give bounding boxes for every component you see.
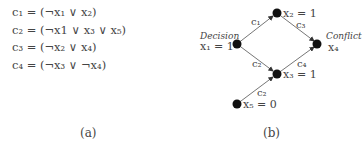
node-x5 xyxy=(233,100,242,109)
edge-label-c1: c₁ xyxy=(251,16,261,27)
node-x3-label: x₃ = 1 xyxy=(283,68,317,81)
node-x2 xyxy=(273,9,282,18)
edge-label-c4: c₄ xyxy=(297,58,307,69)
node-x1-label: x₁ = 1 xyxy=(200,40,234,53)
node-x5-label: x₅ = 0 xyxy=(243,98,277,111)
node-x3 xyxy=(273,70,282,79)
conflict-tag: Conflict xyxy=(326,31,362,41)
node-x4 xyxy=(313,40,322,49)
implication-graph: Decision x₁ = 1 x₂ = 1 Conflict x₄ x₃ = … xyxy=(0,0,363,150)
edge-label-c3: c₃ xyxy=(296,19,306,30)
edge-label-c2-lower: c₂ xyxy=(257,87,267,98)
node-x4-label: x₄ xyxy=(328,41,339,54)
edge-label-c2-upper: c₂ xyxy=(252,58,262,69)
caption-b: (b) xyxy=(263,126,280,140)
